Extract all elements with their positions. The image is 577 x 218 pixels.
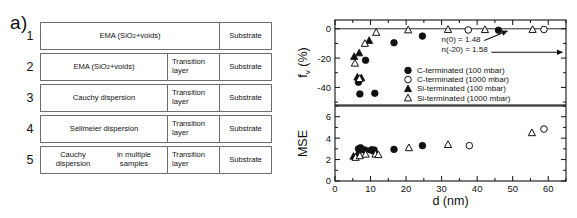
- row-number: 4: [20, 115, 40, 143]
- table-row: 1 EMA (SiO2+voids) Substrate: [20, 22, 272, 50]
- y-axis-title-lower: MSE: [296, 130, 310, 157]
- data-point-lower: [541, 126, 548, 133]
- row-layers: Sellmeier dispersion Transition layer Su…: [40, 115, 272, 143]
- layer-main-tail: +voids): [110, 63, 135, 72]
- layer-cell-transition: Transition layer: [167, 85, 219, 111]
- y-tick-label-lower: 2: [326, 154, 331, 165]
- panel-b-scatter-plots: b) 0-20-4002460102030405060n(0) = 1.48n(…: [290, 0, 577, 218]
- x-tick-label: 60: [543, 183, 554, 194]
- row-layers: Cauchy dispersionin multiple samples Tra…: [40, 146, 272, 174]
- layer-cell-substrate: Substrate: [219, 54, 271, 80]
- y-tick-label-lower: 6: [326, 111, 331, 122]
- annotation-n0: n(0) = 1.48: [442, 35, 481, 44]
- layer-cell-substrate: Substrate: [219, 23, 271, 49]
- data-point-upper: [541, 26, 548, 33]
- table-row: 4 Sellmeier dispersion Transition layer …: [20, 115, 272, 143]
- lower-plot-frame: [335, 106, 566, 181]
- layer-cell-main: EMA (SiO2+voids): [41, 54, 167, 80]
- layer-main-text: EMA (SiO: [73, 63, 106, 72]
- y-tick-label-upper: -20: [317, 53, 331, 64]
- layer-cell-transition: Transition layer: [167, 116, 219, 142]
- layer-cell-substrate: Substrate: [219, 147, 271, 173]
- legend-label: C-terminated (1000 mbar): [417, 75, 509, 84]
- layer-cell-substrate: Substrate: [219, 116, 271, 142]
- y-tick-label-upper: 0: [326, 23, 331, 34]
- panel-a-optical-models: a) 1 EMA (SiO2+voids) Substrate 2 EMA (S…: [0, 0, 290, 218]
- plot-canvas: 0-20-4002460102030405060n(0) = 1.48n(-20…: [290, 0, 577, 218]
- row-number: 5: [20, 146, 40, 174]
- layer-main-tail: in multiple samples: [103, 151, 165, 168]
- annotation-n20: n(-20) = 1.58: [442, 45, 489, 54]
- x-tick-label: 10: [365, 183, 376, 194]
- data-point-lower: [405, 144, 412, 151]
- figure-root: a) 1 EMA (SiO2+voids) Substrate 2 EMA (S…: [0, 0, 577, 218]
- row-layers: EMA (SiO2+voids) Transition layer Substr…: [40, 53, 272, 81]
- data-point-upper: [405, 26, 412, 33]
- data-point-lower: [528, 129, 535, 136]
- data-point-upper: [419, 33, 426, 40]
- data-point-upper: [391, 39, 398, 46]
- layer-cell-substrate: Substrate: [219, 85, 271, 111]
- layer-cell-main: EMA (SiO2+voids): [41, 23, 219, 49]
- layer-cell-transition: Transition layer: [167, 147, 219, 173]
- y-tick-label-lower: 0: [326, 175, 331, 186]
- data-point-upper: [356, 49, 363, 56]
- data-point-upper: [351, 59, 358, 66]
- data-point-upper: [373, 29, 380, 36]
- legend-marker: [405, 76, 412, 83]
- row-number: 3: [20, 84, 40, 112]
- legend-label: Si-terminated (100 mbar): [417, 84, 506, 93]
- data-point-upper: [362, 57, 369, 64]
- y-axis-title-upper: fv (%): [296, 47, 312, 77]
- data-point-lower: [391, 146, 398, 153]
- legend-label: C-terminated (100 mbar): [417, 66, 505, 75]
- legend-marker: [405, 67, 412, 74]
- legend-label: Si-terminated (1000 mbar): [417, 94, 511, 103]
- optical-model-table: 1 EMA (SiO2+voids) Substrate 2 EMA (SiO2…: [20, 22, 272, 177]
- row-layers: EMA (SiO2+voids) Substrate: [40, 22, 272, 50]
- layer-cell-transition: Transition layer: [167, 54, 219, 80]
- data-point-upper: [372, 90, 379, 97]
- data-point-upper: [357, 91, 364, 98]
- table-row: 5 Cauchy dispersionin multiple samples T…: [20, 146, 272, 174]
- table-row: 3 Cauchy dispersion Transition layer Sub…: [20, 84, 272, 112]
- row-layers: Cauchy dispersion Transition layer Subst…: [40, 84, 272, 112]
- data-point-lower: [444, 141, 451, 148]
- row-number: 1: [20, 22, 40, 50]
- layer-cell-main: Cauchy dispersionin multiple samples: [41, 147, 167, 173]
- y-tick-label-lower: 4: [326, 133, 331, 144]
- data-point-upper: [465, 27, 472, 34]
- y-tick-label-upper: -40: [317, 82, 331, 93]
- data-point-lower: [466, 142, 473, 149]
- layer-main-text: EMA (SiO: [99, 32, 132, 41]
- row-number: 2: [20, 53, 40, 81]
- layer-cell-main: Sellmeier dispersion: [41, 116, 167, 142]
- legend-marker: [404, 94, 411, 101]
- data-point-lower: [419, 142, 426, 149]
- layer-cell-main: Cauchy dispersion: [41, 85, 167, 111]
- x-tick-label: 30: [436, 183, 447, 194]
- x-tick-label: 40: [472, 183, 483, 194]
- x-tick-label: 0: [332, 183, 337, 194]
- table-row: 2 EMA (SiO2+voids) Transition layer Subs…: [20, 53, 272, 81]
- x-axis-title: d (nm): [432, 194, 468, 208]
- x-tick-label: 20: [401, 183, 412, 194]
- data-point-upper: [495, 27, 502, 34]
- layer-main-tail: +voids): [136, 32, 161, 41]
- layer-main-text: Cauchy dispersion: [43, 151, 103, 168]
- x-tick-label: 50: [507, 183, 518, 194]
- legend-marker: [404, 85, 411, 92]
